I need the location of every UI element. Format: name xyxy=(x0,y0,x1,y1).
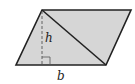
height-label: h xyxy=(45,31,53,45)
base-label: b xyxy=(57,69,65,83)
parallelogram-diagram: h b xyxy=(0,0,135,84)
